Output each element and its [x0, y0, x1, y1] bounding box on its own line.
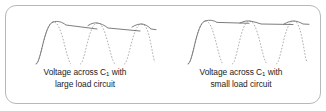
caption-large-load-line1: Voltage across C1 with [20, 68, 150, 80]
caption-small-load-line1-pre: Voltage across C [200, 67, 263, 77]
capacitor-voltage-solid-right [188, 20, 309, 64]
caption-small-load-line2: small load circuit [176, 80, 306, 90]
rectified-sine-dashed-right [188, 21, 307, 64]
capacitor-voltage-solid-left [36, 21, 156, 64]
caption-small-load-line1-post: with [265, 67, 282, 77]
waveform-large-load [36, 21, 156, 64]
caption-large-load-line2: large load circuit [20, 80, 150, 90]
caption-large-load: Voltage across C1 with large load circui… [20, 68, 150, 89]
waveform-plot [0, 0, 326, 111]
waveform-small-load [188, 20, 309, 64]
rectified-sine-dashed-left [36, 22, 155, 64]
caption-small-load: Voltage across C1 with small load circui… [176, 68, 306, 89]
figure-root: Voltage across C1 with large load circui… [0, 0, 326, 111]
caption-large-load-line1-pre: Voltage across C [44, 67, 107, 77]
caption-large-load-line1-post: with [109, 67, 126, 77]
caption-small-load-line1: Voltage across C1 with [176, 68, 306, 80]
